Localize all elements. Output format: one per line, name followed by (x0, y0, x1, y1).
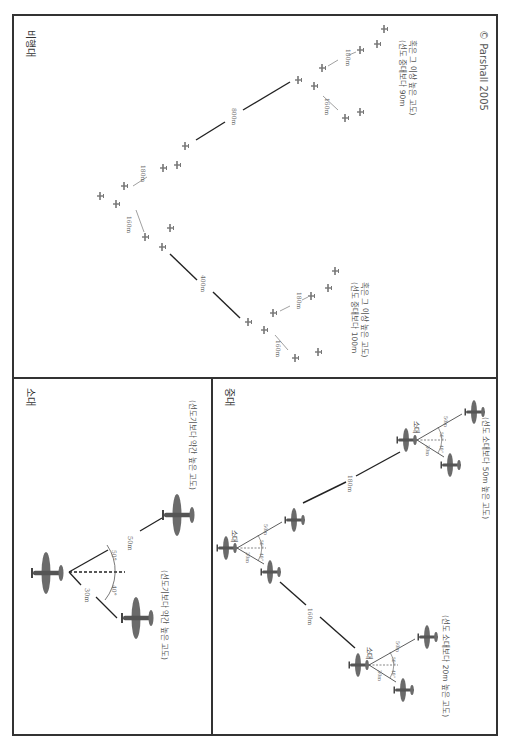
svg-text:40°: 40° (259, 553, 264, 561)
panel-title-shotai: 소대 (25, 388, 36, 406)
svg-text:180m: 180m (296, 292, 303, 309)
svg-text:30m: 30m (425, 445, 431, 456)
distance-160m: 160m (307, 608, 314, 625)
angle-40: 40° (111, 585, 118, 596)
svg-text:(선도 중대보다 100m: (선도 중대보다 100m (350, 282, 359, 353)
svg-text:(선도 중대보다 90m: (선도 중대보다 90m (398, 40, 407, 107)
note-chutai-right: (선도 소대보다 50m 높은 고도) (481, 417, 490, 519)
svg-text:160m: 160m (324, 98, 331, 115)
svg-text:50°: 50° (259, 540, 264, 548)
svg-text:30m: 30m (245, 552, 251, 563)
svg-text:50m: 50m (395, 641, 401, 652)
chutai-upper: 160m 180m (선도 중대보다 90m 혹은 그 이상 높은 고도) (295, 25, 418, 122)
note-right: (선도기보다 약간 높은 고도) (188, 400, 198, 490)
svg-text:50°: 50° (391, 657, 396, 665)
outer-border (13, 15, 497, 735)
panel-hikotai: 비행대 © Parshall 2005 160m 180m 400m 800m (25, 25, 489, 362)
panel-chutai: 중대 소대 30m 50m 40° 50° 160m 180m (217, 388, 491, 717)
svg-text:160m: 160m (275, 340, 282, 357)
svg-text:180m: 180m (345, 49, 352, 66)
panel-title-hikotai: 비행대 (25, 30, 36, 57)
svg-text:40°: 40° (391, 670, 396, 678)
svg-text:40°: 40° (439, 445, 444, 453)
chutai-lead: 160m 180m (97, 142, 189, 251)
shotai-lead: 소대 30m 50m 40° 50° (217, 508, 306, 584)
distance-400m: 400m (200, 275, 207, 292)
svg-text:50m: 50m (263, 524, 269, 535)
distance-800m: 800m (231, 108, 238, 125)
copyright: © Parshall 2005 (478, 30, 489, 111)
panel-shotai: 소대 30m 50m 40° 50° (선도기보다 약간 높은 고도) (선도기… (25, 388, 198, 660)
wingman-right-plane-icon (162, 494, 195, 536)
svg-text:소대: 소대 (365, 647, 373, 659)
distance-30m: 30m (83, 588, 91, 602)
distance-50m: 50m (126, 536, 134, 550)
note-left: (선도기보다 약간 높은 고도) (160, 570, 170, 660)
distance-180m: 180m (347, 475, 354, 492)
svg-text:50°: 50° (439, 432, 444, 440)
svg-text:소대: 소대 (230, 530, 238, 542)
svg-text:180m: 180m (140, 165, 147, 182)
chutai-lower: 160m 180m (선도 중대보다 100m 혹은 그 이상 높은 고도) (245, 267, 370, 362)
svg-text:소대: 소대 (412, 421, 420, 433)
svg-text:30m: 30m (377, 670, 383, 681)
svg-text:50m: 50m (443, 416, 449, 427)
shotai-right: 소대 30m 50m 40° 50° (선도 소대보다 50m 높은 고도) (397, 400, 491, 519)
shotai-left: 소대 30m 50m 40° 50° (선도 소대보다 20m 높은 고도) (349, 615, 451, 717)
wingman-left-plane-icon (121, 597, 154, 639)
formation-diagram: 비행대 © Parshall 2005 160m 180m 400m 800m (0, 0, 508, 749)
note-chutai-left: (선도 소대보다 20m 높은 고도) (441, 615, 450, 717)
svg-text:160m: 160m (126, 216, 133, 233)
svg-text:혹은 그 이상 높은 고도): 혹은 그 이상 높은 고도) (408, 40, 418, 116)
lead-plane-icon (31, 552, 64, 594)
panel-title-chutai: 중대 (224, 388, 235, 406)
svg-text:혹은 그 이상 높은 고도): 혹은 그 이상 높은 고도) (360, 282, 370, 358)
angle-50: 50° (111, 550, 118, 561)
